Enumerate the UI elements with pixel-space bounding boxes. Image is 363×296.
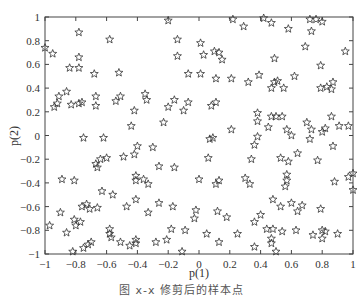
star-marker-icon bbox=[130, 106, 138, 114]
star-marker-icon bbox=[284, 157, 292, 165]
star-marker-icon bbox=[280, 84, 288, 92]
star-marker-icon bbox=[344, 122, 352, 130]
star-marker-icon bbox=[164, 103, 172, 111]
star-marker-icon bbox=[267, 19, 275, 27]
star-marker-icon bbox=[184, 70, 192, 78]
star-marker-icon bbox=[203, 230, 211, 238]
star-marker-icon bbox=[98, 187, 106, 195]
star-marker-icon bbox=[115, 68, 123, 76]
star-marker-icon bbox=[317, 205, 325, 213]
data-points bbox=[41, 14, 357, 255]
star-marker-icon bbox=[227, 74, 235, 82]
star-marker-icon bbox=[334, 230, 342, 238]
star-marker-icon bbox=[277, 202, 285, 210]
y-tick-label: 1 bbox=[35, 11, 41, 23]
star-marker-icon bbox=[213, 207, 221, 215]
star-marker-icon bbox=[53, 99, 61, 107]
star-marker-icon bbox=[169, 202, 177, 210]
star-marker-icon bbox=[255, 71, 263, 79]
star-marker-icon bbox=[215, 238, 223, 246]
star-marker-icon bbox=[181, 226, 189, 234]
star-marker-icon bbox=[244, 78, 252, 86]
y-tick-label: −0.4 bbox=[20, 177, 40, 189]
star-marker-icon bbox=[335, 122, 343, 130]
star-marker-icon bbox=[284, 25, 292, 33]
star-marker-icon bbox=[318, 234, 326, 242]
star-marker-icon bbox=[229, 15, 237, 23]
star-marker-icon bbox=[317, 61, 325, 69]
star-marker-icon bbox=[329, 78, 337, 86]
star-marker-icon bbox=[197, 39, 205, 47]
star-marker-icon bbox=[167, 225, 175, 233]
star-marker-icon bbox=[132, 195, 140, 203]
star-marker-icon bbox=[46, 221, 54, 229]
y-tick-label: −0.6 bbox=[20, 201, 40, 213]
y-tick-label: 0.6 bbox=[26, 58, 40, 70]
star-marker-icon bbox=[173, 35, 181, 43]
x-tick-label: −1 bbox=[39, 258, 51, 270]
star-marker-icon bbox=[70, 215, 78, 223]
star-marker-icon bbox=[163, 236, 171, 244]
star-marker-icon bbox=[283, 125, 291, 133]
star-marker-icon bbox=[250, 243, 258, 251]
star-marker-icon bbox=[75, 99, 83, 107]
star-marker-icon bbox=[144, 208, 152, 216]
star-marker-icon bbox=[75, 53, 83, 61]
star-marker-icon bbox=[283, 176, 291, 184]
star-marker-icon bbox=[327, 85, 335, 93]
star-marker-icon bbox=[329, 142, 337, 150]
star-marker-icon bbox=[269, 225, 277, 233]
star-marker-icon bbox=[218, 55, 226, 63]
star-marker-icon bbox=[307, 125, 315, 133]
star-marker-icon bbox=[160, 118, 168, 126]
star-marker-icon bbox=[323, 83, 331, 91]
star-marker-icon bbox=[317, 84, 325, 92]
star-marker-icon bbox=[92, 102, 100, 110]
star-marker-icon bbox=[250, 218, 258, 226]
star-marker-icon bbox=[197, 70, 205, 78]
star-marker-icon bbox=[87, 238, 95, 246]
star-marker-icon bbox=[63, 228, 71, 236]
y-axis-label: p(2) bbox=[7, 126, 21, 146]
star-marker-icon bbox=[292, 226, 300, 234]
star-marker-icon bbox=[303, 118, 311, 126]
star-marker-icon bbox=[223, 213, 231, 221]
star-marker-icon bbox=[212, 180, 220, 188]
star-marker-icon bbox=[250, 141, 258, 149]
star-marker-icon bbox=[116, 92, 124, 100]
star-marker-icon bbox=[152, 238, 160, 246]
star-marker-icon bbox=[56, 208, 64, 216]
x-tick-label: −0.8 bbox=[66, 258, 86, 270]
x-tick-label: −0.6 bbox=[97, 258, 117, 270]
star-marker-icon bbox=[66, 64, 74, 72]
figure-caption: 图 x-x 修剪后的样本点 bbox=[0, 281, 363, 296]
star-marker-icon bbox=[294, 149, 302, 157]
star-marker-icon bbox=[341, 47, 349, 55]
star-marker-icon bbox=[321, 227, 329, 235]
star-marker-icon bbox=[312, 15, 320, 23]
star-marker-icon bbox=[331, 178, 339, 186]
star-marker-icon bbox=[327, 112, 335, 120]
y-tick-label: 0.8 bbox=[26, 35, 40, 47]
scatter-plot: −1−0.8−0.6−0.4−0.200.20.40.60.81 −1−0.8−… bbox=[0, 0, 363, 296]
star-marker-icon bbox=[234, 230, 242, 238]
star-marker-icon bbox=[267, 84, 275, 92]
y-tick-label: 0 bbox=[35, 130, 41, 142]
star-marker-icon bbox=[90, 70, 98, 78]
star-marker-icon bbox=[277, 154, 285, 162]
star-marker-icon bbox=[155, 162, 163, 170]
x-tick-label: −0.2 bbox=[158, 258, 178, 270]
y-tick-label: 0.2 bbox=[26, 106, 40, 118]
star-marker-icon bbox=[321, 124, 329, 132]
star-marker-icon bbox=[149, 143, 157, 151]
x-tick-label: 0.8 bbox=[315, 258, 329, 270]
star-marker-icon bbox=[278, 112, 286, 120]
star-marker-icon bbox=[141, 90, 149, 98]
star-marker-icon bbox=[254, 117, 262, 125]
x-axis-label: p(1) bbox=[189, 266, 209, 280]
axis-ticks bbox=[45, 17, 353, 254]
star-marker-icon bbox=[184, 98, 192, 106]
star-marker-icon bbox=[92, 92, 100, 100]
star-marker-icon bbox=[106, 35, 114, 43]
x-tick-label: −0.4 bbox=[127, 258, 147, 270]
